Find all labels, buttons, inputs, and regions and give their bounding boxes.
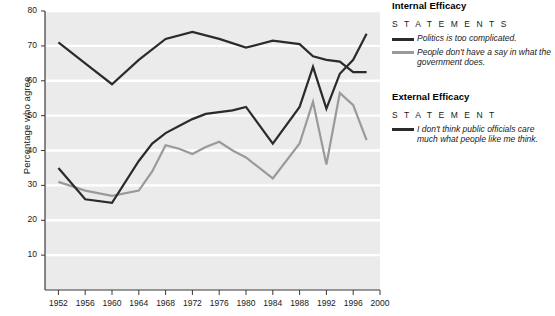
chart-figure: Percentage who agree 1020304050607080 19…: [0, 0, 555, 316]
legend-group-subheading: S T A T E M E N T S: [392, 19, 555, 29]
y-axis-tick-label: 50: [13, 110, 37, 120]
legend-group-heading: Internal Efficacy: [392, 0, 555, 11]
legend-item[interactable]: I don't think public officials care much…: [392, 124, 555, 145]
legend-item-label: I don't think public officials care much…: [417, 124, 555, 145]
legend-group-spacer: [392, 71, 555, 91]
legend-line-swatch-icon: [392, 51, 414, 54]
chart-legend: Internal EfficacyS T A T E M E N T SPoli…: [392, 0, 555, 148]
legend-item[interactable]: People don't have a say in what the gove…: [392, 47, 555, 68]
y-axis-tick-label: 30: [13, 179, 37, 189]
legend-group-external-efficacy: External EfficacyS T A T E M E N TI don'…: [392, 91, 555, 145]
y-axis-tick-label: 70: [13, 40, 37, 50]
legend-item-label: People don't have a say in what the gove…: [417, 47, 555, 68]
y-axis-tick-label: 20: [13, 214, 37, 224]
y-axis-tick-label: 40: [13, 145, 37, 155]
y-axis-tick-label: 80: [13, 5, 37, 15]
legend-line-swatch-icon: [392, 38, 414, 41]
legend-line-swatch-icon: [392, 128, 414, 131]
y-axis-tick-label: 60: [13, 75, 37, 85]
y-axis-tick-label: 10: [13, 249, 37, 259]
legend-item-label: Politics is too complicated.: [417, 33, 517, 44]
legend-group-heading: External Efficacy: [392, 91, 555, 102]
x-axis-tick-label: 2000: [360, 298, 400, 308]
legend-group-internal-efficacy: Internal EfficacyS T A T E M E N T SPoli…: [392, 0, 555, 68]
legend-item[interactable]: Politics is too complicated.: [392, 33, 555, 44]
legend-group-subheading: S T A T E M E N T: [392, 110, 555, 120]
